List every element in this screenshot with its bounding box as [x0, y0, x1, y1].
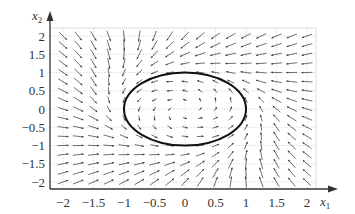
x-tick-label: −1.5: [82, 195, 106, 210]
vector-arrow-head: [66, 171, 68, 173]
vector-arrow-head: [171, 136, 173, 138]
vector-arrow-head: [286, 72, 288, 74]
vector-arrow-head: [143, 154, 145, 156]
vector-arrow-head: [66, 109, 68, 111]
vector-arrow-head: [202, 135, 204, 137]
vector-arrow-head: [217, 135, 219, 137]
vector-arrow-head: [97, 145, 99, 147]
vector-arrow-head: [151, 81, 153, 83]
vector-arrow-head: [109, 48, 111, 50]
vector-arrow-head: [271, 89, 273, 91]
vector-arrow-head: [97, 171, 99, 173]
vector-arrow-head: [167, 90, 169, 92]
vector-arrow-head: [225, 63, 227, 65]
y-tick-label: 2: [39, 29, 46, 44]
y-tick-label: −1.5: [21, 156, 45, 171]
x-axis-label: x1: [319, 194, 330, 211]
vector-arrow-head: [271, 71, 273, 73]
vector-arrow-head: [271, 63, 273, 65]
vector-arrow-head: [196, 63, 198, 65]
vector-arrow-head: [302, 107, 304, 109]
vector-arrow-head: [109, 39, 111, 41]
x-tick-label: −0.5: [143, 195, 167, 210]
vector-arrow-head: [97, 128, 99, 130]
vector-arrow-head: [260, 132, 262, 134]
vector-arrow-head: [302, 36, 304, 38]
vector-arrow-head: [259, 177, 261, 179]
x-tick-label: 1: [243, 195, 250, 210]
y-tick-label: 0: [39, 102, 46, 117]
vector-arrow-head: [112, 136, 114, 138]
x-tick-label: 0.5: [207, 195, 223, 210]
vector-arrow-head: [112, 153, 114, 155]
y-tick-label: 1.5: [29, 47, 45, 62]
vector-arrow-head: [286, 80, 288, 82]
vector-arrow-head: [67, 136, 69, 138]
vector-arrow-head: [81, 118, 83, 120]
vector-arrow-head: [302, 72, 304, 74]
vector-arrow-head: [108, 84, 110, 86]
x-tick-label: −1: [117, 195, 131, 210]
vector-arrow-head: [197, 80, 199, 82]
x-tick-label: 0: [182, 195, 189, 210]
y-tick-label: 0.5: [29, 83, 45, 98]
vector-arrow-head: [173, 153, 175, 155]
vector-arrow-head: [256, 63, 258, 65]
vector-arrow-head: [259, 168, 261, 170]
vector-arrow-head: [241, 63, 243, 65]
y-axis-label: x2: [31, 8, 42, 25]
vector-arrow-head: [302, 45, 304, 47]
phase-portrait: −2−1.5−1−0.500.511.52−2−1.5−1−0.500.511.…: [0, 0, 355, 214]
vector-arrow-head: [166, 81, 168, 83]
vector-arrow-head: [67, 144, 69, 146]
y-axis-arrowhead: [47, 11, 54, 21]
vector-arrow-head: [112, 171, 114, 173]
vector-arrow-head: [256, 80, 258, 82]
vector-arrow-head: [173, 162, 175, 164]
vector-arrow-head: [241, 45, 243, 47]
y-tick-label: 1: [39, 65, 46, 80]
y-tick-label: −1: [31, 138, 45, 153]
vector-arrow-head: [201, 126, 203, 128]
vector-arrow-head: [82, 136, 84, 138]
x-axis-arrowhead: [328, 186, 338, 193]
vector-arrow-head: [302, 81, 304, 83]
axes: [47, 11, 339, 193]
x-tick-label: −2: [56, 195, 70, 210]
vector-arrow-head: [123, 49, 125, 51]
vector-arrow-head: [82, 145, 84, 147]
vector-arrow-head: [128, 154, 130, 156]
vector-arrow-head: [271, 45, 273, 47]
vector-arrow-head: [127, 171, 129, 173]
vector-arrow-head: [97, 153, 99, 155]
x-tick-label: 2: [304, 195, 311, 210]
y-tick-label: −0.5: [21, 120, 45, 135]
x-tick-label: 1.5: [268, 195, 284, 210]
y-tick-label: −2: [31, 175, 45, 190]
vector-arrow-head: [210, 63, 212, 65]
vector-arrow-head: [158, 154, 160, 156]
vector-arrow-head: [256, 45, 258, 47]
vector-arrow-head: [66, 180, 68, 182]
vector-arrow-head: [195, 54, 197, 56]
vector-arrow-head: [287, 98, 289, 100]
